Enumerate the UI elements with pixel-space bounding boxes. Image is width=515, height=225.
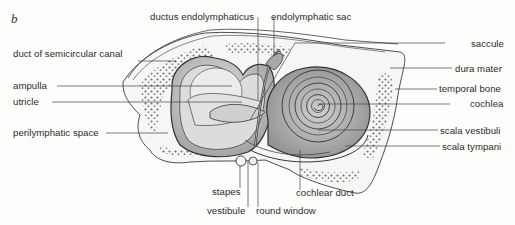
label-endolymphatic-sac: endolymphatic sac: [271, 11, 351, 22]
label-dura-mater: dura mater: [455, 63, 502, 74]
label-temporal-bone: temporal bone: [439, 83, 501, 94]
anatomy-drawing: [0, 0, 515, 225]
label-cochlear-duct: cochlear duct: [296, 187, 354, 198]
label-saccule: saccule: [471, 38, 504, 49]
label-vestibule: vestibule: [207, 205, 245, 216]
label-round-window: round window: [256, 205, 316, 216]
label-duct-of-semicircular-canal: duct of semicircular canal: [13, 48, 123, 59]
label-perilymphatic-space: perilymphatic space: [13, 127, 99, 138]
label-scala-vestibuli: scala vestibuli: [440, 125, 500, 136]
label-cochlea: cochlea: [470, 98, 503, 109]
label-utricle: utricle: [13, 96, 39, 107]
label-ductus-endolymphaticus: ductus endolymphaticus: [150, 11, 254, 22]
label-scala-tympani: scala tympani: [442, 141, 501, 152]
vestibular-labyrinth: [171, 57, 274, 157]
label-stapes: stapes: [212, 186, 241, 197]
label-ampulla: ampulla: [13, 80, 47, 91]
panel-letter: b: [11, 11, 18, 27]
inner-ear-diagram: b ductus endolymphaticus endolymphatic s…: [0, 0, 515, 225]
